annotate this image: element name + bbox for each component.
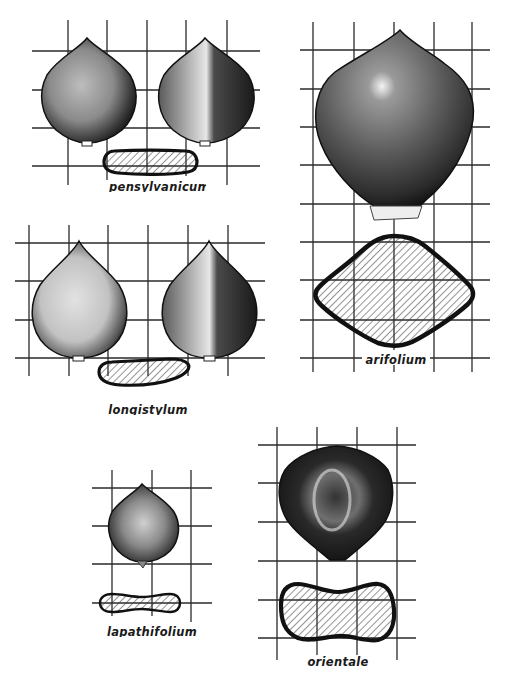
pensylvanicum-achene-face bbox=[42, 38, 136, 143]
arifolium-label: arifolium bbox=[362, 353, 429, 365]
arifolium-cross-section bbox=[315, 236, 473, 346]
longistylum-figure bbox=[15, 225, 265, 385]
longistylum-achene-face bbox=[32, 241, 127, 358]
arifolium-perianth-base bbox=[370, 206, 422, 220]
lapathifolium-cross-section bbox=[100, 594, 180, 612]
longistylum-label: longistylum bbox=[105, 403, 190, 415]
lapathifolium-figure bbox=[92, 470, 212, 622]
arifolium-achene-face bbox=[316, 30, 474, 206]
arifolium-figure bbox=[300, 22, 490, 372]
orientale-figure bbox=[258, 427, 416, 660]
specimen-plate: pensylvanicum arifolium bbox=[0, 0, 505, 680]
lapathifolium-label: lapathifolium bbox=[104, 625, 200, 637]
pensylvanicum-label: pensylvanicum bbox=[106, 180, 206, 192]
pensylvanicum-cross-section bbox=[104, 150, 197, 174]
orientale-cross-section bbox=[281, 584, 394, 640]
lapathifolium-achene-face bbox=[109, 484, 179, 562]
orientale-label: orientale bbox=[304, 655, 371, 667]
orientale-achene-face bbox=[279, 446, 393, 560]
pensylvanicum-figure bbox=[32, 20, 260, 190]
longistylum-achene-side bbox=[162, 241, 257, 358]
pensylvanicum-achene-side bbox=[159, 38, 254, 143]
longistylum-cross-section bbox=[99, 359, 189, 385]
